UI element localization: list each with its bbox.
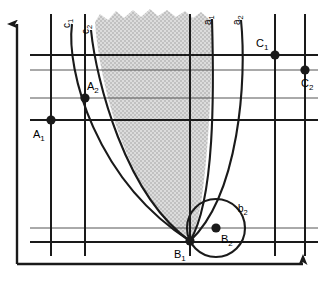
label-B2: B2	[221, 233, 233, 248]
label-A1: A1	[33, 128, 45, 143]
point-C2	[300, 65, 309, 74]
point-B1	[185, 236, 194, 245]
label-circle-b2: b2	[238, 203, 248, 217]
point-A1	[46, 115, 55, 124]
label-curve-a2: a2	[231, 15, 245, 25]
point-C1	[270, 50, 279, 59]
point-B2	[211, 223, 220, 232]
label-C1: C1	[256, 37, 269, 52]
figure-container: A1 A2 B1 B2 C1 C2 c1 c2	[0, 0, 323, 281]
point-A2	[80, 93, 89, 102]
geometric-diagram: A1 A2 B1 B2 C1 C2 c1 c2	[0, 0, 323, 281]
label-B1: B1	[174, 248, 186, 263]
label-C2: C2	[301, 77, 314, 92]
label-A2: A2	[87, 80, 99, 95]
